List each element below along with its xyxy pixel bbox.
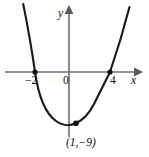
plot-canvas (0, 0, 149, 157)
vertex-point-label: (1,−9) (66, 137, 96, 149)
parabola-figure: −2 0 4 x y (1,−9) (0, 0, 149, 157)
y-axis-label: y (58, 8, 63, 20)
y-axis-arrow-icon (65, 5, 74, 14)
x-tick-label-neg2: −2 (25, 75, 37, 87)
x-tick-label-zero: 0 (63, 75, 69, 87)
parabola-curve (23, 4, 129, 125)
point-vertex (73, 121, 79, 127)
x-axis-label: x (131, 75, 136, 87)
x-tick-label-four: 4 (110, 75, 116, 87)
